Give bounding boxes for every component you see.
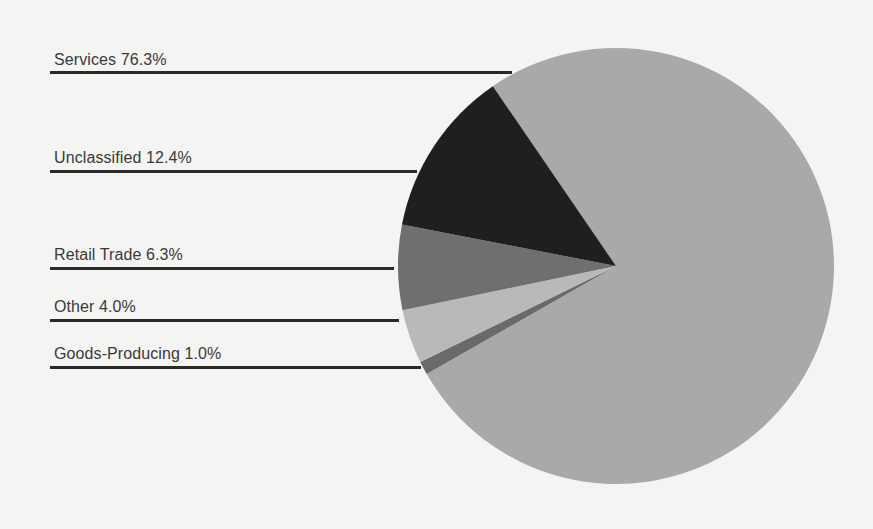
leader-line-other (50, 319, 399, 322)
pie-chart (0, 0, 873, 529)
leader-line-goods-producing (50, 366, 421, 369)
label-services: Services 76.3% (54, 51, 167, 69)
leader-line-unclassified (50, 170, 417, 173)
label-retail-trade: Retail Trade 6.3% (54, 246, 183, 264)
leader-line-retail-trade (50, 267, 394, 270)
label-unclassified: Unclassified 12.4% (54, 149, 192, 167)
label-other: Other 4.0% (54, 298, 136, 316)
label-goods-producing: Goods-Producing 1.0% (54, 345, 221, 363)
leader-line-services (50, 71, 512, 74)
